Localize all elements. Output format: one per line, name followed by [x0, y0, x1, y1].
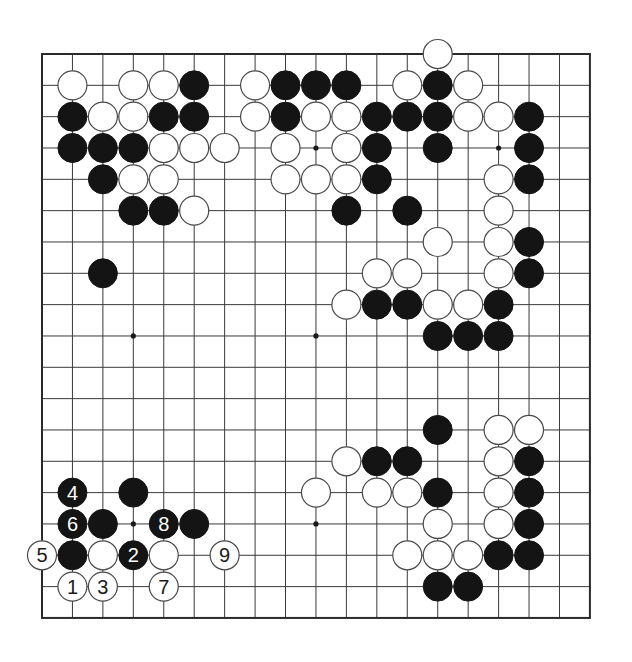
stone-disc — [362, 478, 391, 507]
move-number-label: 5 — [36, 544, 47, 566]
stone-disc — [58, 133, 87, 162]
white-stone — [88, 102, 117, 131]
stone-disc — [119, 196, 148, 225]
stone-disc — [423, 40, 452, 69]
black-stone — [393, 290, 422, 319]
stone-disc — [423, 321, 452, 350]
move-number-label: 6 — [67, 513, 78, 535]
stone-disc — [332, 196, 361, 225]
white-stone — [58, 71, 87, 100]
white-stone — [332, 447, 361, 476]
stone-disc — [149, 541, 178, 570]
stone-disc — [88, 165, 117, 194]
stone-disc — [454, 541, 483, 570]
stone-disc — [454, 572, 483, 601]
stone-disc — [119, 478, 148, 507]
stone-disc — [515, 102, 544, 131]
stone-disc — [119, 165, 148, 194]
black-stone — [454, 572, 483, 601]
white-stone: 3 — [88, 572, 117, 601]
stone-disc — [515, 447, 544, 476]
white-stone: 7 — [149, 572, 178, 601]
stone-disc — [332, 71, 361, 100]
stone-disc — [484, 165, 513, 194]
white-stone — [484, 196, 513, 225]
black-stone — [180, 71, 209, 100]
black-stone — [423, 71, 452, 100]
stone-disc — [301, 478, 330, 507]
stone-disc — [149, 165, 178, 194]
black-stone: 4 — [58, 478, 87, 507]
stone-disc — [393, 196, 422, 225]
stone-disc — [515, 415, 544, 444]
white-stone — [362, 478, 391, 507]
white-stone — [423, 509, 452, 538]
white-stone — [301, 102, 330, 131]
white-stone: 5 — [28, 541, 57, 570]
white-stone — [149, 165, 178, 194]
stone-disc — [271, 71, 300, 100]
stone-disc — [484, 196, 513, 225]
stone-disc — [484, 541, 513, 570]
move-number-label: 7 — [158, 576, 169, 598]
stone-disc — [423, 572, 452, 601]
white-stone — [484, 227, 513, 256]
stone-disc — [362, 290, 391, 319]
black-stone — [271, 71, 300, 100]
stone-disc — [393, 478, 422, 507]
white-stone — [332, 133, 361, 162]
white-stone — [271, 133, 300, 162]
white-stone — [393, 541, 422, 570]
stone-disc — [484, 321, 513, 350]
white-stone: 1 — [58, 572, 87, 601]
stone-disc — [362, 165, 391, 194]
stone-disc — [423, 71, 452, 100]
white-stone — [484, 509, 513, 538]
stone-disc — [301, 71, 330, 100]
white-stone — [332, 165, 361, 194]
stone-disc — [454, 290, 483, 319]
white-stone — [332, 102, 361, 131]
star-point — [313, 145, 318, 150]
stone-disc — [149, 102, 178, 131]
black-stone: 6 — [58, 509, 87, 538]
white-stone — [149, 541, 178, 570]
stone-disc — [515, 541, 544, 570]
black-stone — [393, 102, 422, 131]
stone-disc — [423, 102, 452, 131]
black-stone — [515, 478, 544, 507]
stone-disc — [423, 509, 452, 538]
stone-disc — [88, 102, 117, 131]
stone-disc — [393, 541, 422, 570]
stone-disc — [58, 541, 87, 570]
stone-disc — [149, 133, 178, 162]
stone-disc — [393, 447, 422, 476]
stone-disc — [484, 415, 513, 444]
stone-disc — [393, 290, 422, 319]
star-point — [131, 521, 136, 526]
white-stone — [210, 133, 239, 162]
black-stone — [484, 541, 513, 570]
black-stone — [423, 133, 452, 162]
stone-disc — [332, 447, 361, 476]
white-stone — [484, 102, 513, 131]
white-stone — [515, 415, 544, 444]
black-stone — [484, 290, 513, 319]
star-point — [496, 145, 501, 150]
stone-disc — [271, 133, 300, 162]
stone-disc — [484, 447, 513, 476]
move-number-label: 4 — [67, 482, 78, 504]
black-stone — [271, 102, 300, 131]
stone-disc — [484, 259, 513, 288]
black-stone — [88, 259, 117, 288]
black-stone — [393, 447, 422, 476]
stone-disc — [301, 102, 330, 131]
stone-disc — [301, 165, 330, 194]
stone-disc — [241, 71, 270, 100]
stone-disc — [393, 259, 422, 288]
white-stone — [271, 165, 300, 194]
black-stone — [149, 102, 178, 131]
stone-disc — [423, 290, 452, 319]
black-stone — [515, 133, 544, 162]
white-stone — [454, 71, 483, 100]
